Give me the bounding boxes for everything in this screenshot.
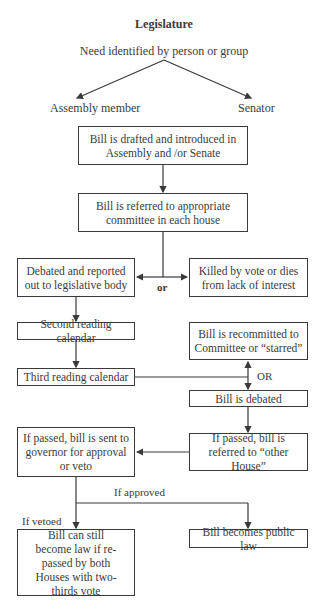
branch-assembly-member: Assembly member xyxy=(50,101,140,116)
diagram-title: Legislature xyxy=(0,17,328,32)
node-bill-drafted: Bill is drafted and introduced in Assemb… xyxy=(78,126,248,165)
node-veto-override: Bill can still become law if re-passed b… xyxy=(17,529,135,596)
node-to-governor: If passed, bill is sent to governor for … xyxy=(17,427,135,477)
edge-label-or-upper: OR xyxy=(257,370,272,382)
edge-label-if-approved: If approved xyxy=(114,486,165,498)
edge-label-if-vetoed: If vetoed xyxy=(22,515,61,527)
node-bill-referred: Bill is referred to appropriate committe… xyxy=(78,193,248,232)
edge-label-or: or xyxy=(157,281,167,293)
node-public-law: Bill becomes public law xyxy=(189,529,308,548)
branch-senator: Senator xyxy=(238,101,275,116)
node-third-reading: Third reading calendar xyxy=(17,368,135,386)
node-killed: Killed by vote or dies from lack of inte… xyxy=(189,258,308,297)
node-recommitted: Bill is recommitted to Committee or “sta… xyxy=(189,322,308,360)
origin-label: Need identified by person or group xyxy=(0,44,328,59)
node-bill-debated: Bill is debated xyxy=(189,390,308,407)
node-debated-reported: Debated and reported out to legislative … xyxy=(17,258,135,297)
node-second-reading: Second reading calendar xyxy=(17,322,135,340)
node-other-house: If passed, bill is referred to “other Ho… xyxy=(189,433,308,471)
